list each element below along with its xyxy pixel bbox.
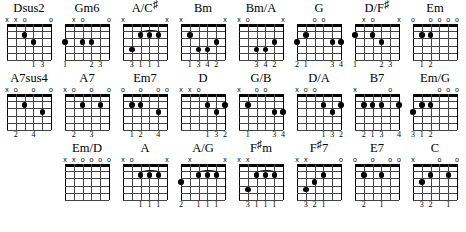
string-line	[439, 164, 440, 200]
fret-line	[123, 53, 167, 54]
finger-dot	[222, 102, 227, 107]
finger-dot	[129, 102, 134, 107]
chord-diagram[interactable]: Em/Dxxoooo	[58, 140, 116, 210]
chord-diagram[interactable]: Emooooo12	[406, 0, 464, 70]
finger-number: 3	[328, 60, 336, 70]
string-line	[16, 24, 17, 60]
chord-diagram[interactable]: Bmxx1342	[174, 0, 232, 70]
string-line	[248, 24, 249, 60]
nut	[65, 94, 109, 97]
chord-diagram[interactable]: Cxoo321	[406, 140, 464, 210]
chord-diagram[interactable]: D/F♯xox123	[348, 0, 406, 70]
chord-diagram[interactable]: F♯mxx3111	[232, 140, 290, 210]
chord-diagram[interactable]: A/Gxx2111	[174, 140, 232, 210]
fret-line	[297, 101, 341, 102]
open-string-icon: o	[352, 156, 359, 164]
finger-number: 3	[212, 130, 220, 140]
chord-diagram[interactable]: G/Bxoo134	[232, 70, 290, 140]
string-line	[74, 164, 75, 200]
fretboard-grid	[297, 94, 341, 130]
chord-diagram[interactable]: A7sus4xooo24	[0, 70, 58, 140]
finger-dot	[156, 172, 161, 177]
finger-dot	[379, 39, 384, 44]
chord-name: Em/D	[58, 140, 116, 156]
finger-number: 1	[203, 130, 211, 140]
string-line	[123, 164, 124, 200]
chord-diagram[interactable]: E7oooo21	[348, 140, 406, 210]
chord-diagram[interactable]: Em/Gooo312	[406, 70, 464, 140]
chord-diagram[interactable]: A7xooo23	[58, 70, 116, 140]
finger-dot	[138, 32, 143, 37]
chord-diagram[interactable]: Em7oooo124	[116, 70, 174, 140]
chord-diagram[interactable]: A/C♯xx3111	[116, 0, 174, 70]
chord-diagram[interactable]: B7xo2134	[348, 70, 406, 140]
finger-dot	[370, 32, 375, 37]
nut	[355, 94, 399, 97]
fret-line	[65, 193, 109, 194]
finger-dot	[303, 32, 308, 37]
open-string-icon: o	[106, 156, 113, 164]
finger-dot	[138, 102, 143, 107]
fretboard-grid	[65, 164, 109, 200]
sharp-icon: ♯	[384, 0, 390, 10]
finger-dot	[214, 109, 219, 114]
string-line	[132, 24, 133, 60]
chord-diagram[interactable]: Bm/Axox342	[232, 0, 290, 70]
open-string-icon: o	[48, 16, 55, 24]
string-markers: xoo	[58, 16, 116, 24]
string-line	[225, 24, 226, 60]
nut	[7, 24, 51, 27]
fret-line	[239, 193, 283, 194]
finger-number: 1	[244, 130, 252, 140]
string-line	[422, 94, 423, 130]
open-string-icon: o	[338, 156, 345, 164]
chord-name: D/A	[290, 70, 348, 86]
finger-dot	[147, 32, 152, 37]
string-line	[381, 94, 382, 130]
muted-string-icon: x	[236, 16, 243, 24]
muted-string-icon: x	[410, 156, 417, 164]
finger-numbers: 111	[116, 200, 174, 210]
finger-dot	[245, 187, 250, 192]
string-line	[364, 24, 365, 60]
string-line	[431, 24, 432, 60]
string-line	[439, 24, 440, 60]
chord-diagram[interactable]: Axox111	[116, 140, 174, 210]
fret-line	[355, 38, 399, 39]
fret-line	[181, 101, 225, 102]
fret-line	[65, 38, 109, 39]
finger-dot	[303, 187, 308, 192]
string-line	[248, 164, 249, 200]
chord-diagram[interactable]: F♯7xxo321	[290, 140, 348, 210]
fret-line	[297, 53, 341, 54]
string-line	[33, 94, 34, 130]
fretboard-grid	[123, 24, 167, 60]
string-line	[355, 94, 356, 130]
finger-number: 3	[328, 130, 336, 140]
fretboard-grid	[413, 24, 457, 60]
finger-dot	[205, 102, 210, 107]
muted-string-icon: x	[302, 156, 309, 164]
open-string-icon: o	[88, 156, 95, 164]
fret-line	[413, 123, 457, 124]
string-line	[390, 94, 391, 130]
finger-dot	[419, 32, 424, 37]
chord-diagram[interactable]: Goo2134	[290, 0, 348, 70]
finger-number: 2	[177, 200, 185, 210]
string-line	[7, 24, 8, 60]
finger-dot	[410, 109, 415, 114]
muted-string-icon: x	[186, 156, 193, 164]
chord-diagram[interactable]: Dxxo132	[174, 70, 232, 140]
string-line	[149, 94, 150, 130]
finger-dot	[294, 39, 299, 44]
open-string-icon: o	[436, 86, 443, 94]
chord-diagram[interactable]: Gm6xoo123	[58, 0, 116, 70]
string-line	[457, 24, 458, 60]
fretboard-grid	[413, 94, 457, 130]
chord-name: A7	[58, 70, 116, 86]
muted-string-icon: x	[294, 86, 301, 94]
muted-string-icon: x	[70, 156, 77, 164]
string-line	[190, 164, 191, 200]
chord-diagram[interactable]: D/Axoo132	[290, 70, 348, 140]
chord-diagram[interactable]: Dsus2xxoo13	[0, 0, 58, 70]
